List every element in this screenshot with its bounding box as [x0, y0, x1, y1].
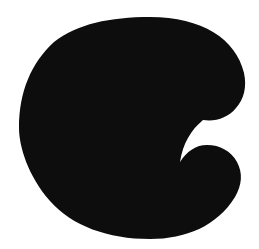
glyph-canvas: C — [0, 0, 259, 249]
letter-c-glyph — [0, 0, 259, 249]
